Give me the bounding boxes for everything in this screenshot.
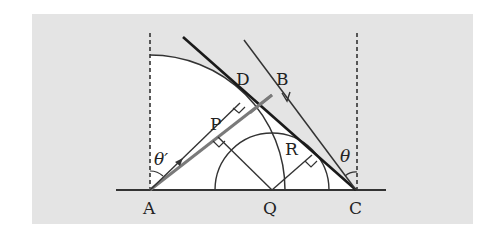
label-theta-prime: θ′ xyxy=(154,149,168,169)
label-a: A xyxy=(142,198,156,218)
label-r: R xyxy=(285,139,299,159)
label-b: B xyxy=(276,69,289,89)
label-q: Q xyxy=(263,198,277,218)
label-p: P xyxy=(210,114,221,134)
label-c: C xyxy=(349,198,362,218)
label-theta: θ xyxy=(340,146,350,166)
diagram-canvas: A Q C D B P R θ′ θ xyxy=(0,0,499,242)
label-d: D xyxy=(236,69,250,89)
